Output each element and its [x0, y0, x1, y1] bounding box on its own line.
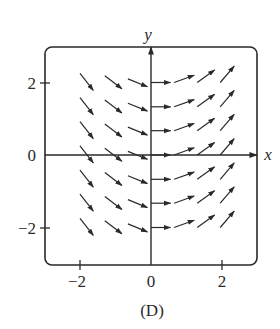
slope-arrow: [80, 170, 93, 187]
slope-arrow: [197, 191, 214, 204]
slope-arrow: [220, 90, 234, 106]
slope-arrow: [220, 163, 234, 179]
slope-arrow: [197, 94, 214, 107]
y-tick-label-2: 2: [28, 74, 37, 93]
slope-arrow: [128, 200, 147, 208]
slope-arrow: [174, 172, 194, 179]
slope-arrow: [128, 176, 147, 184]
slope-arrow: [105, 76, 122, 89]
figure-caption: (D): [140, 301, 164, 320]
slope-arrow: [105, 173, 122, 186]
slope-arrow: [80, 218, 93, 235]
slope-arrow: [220, 187, 234, 203]
y-tick-label-neg2: −2: [18, 219, 36, 238]
slope-arrow: [220, 66, 234, 82]
slope-arrow: [105, 196, 122, 209]
slope-arrow: [197, 70, 214, 83]
slope-arrow: [197, 167, 214, 180]
slope-arrow: [128, 127, 147, 135]
slope-arrow: [80, 194, 93, 211]
slope-arrow: [174, 220, 194, 227]
slope-arrows: [80, 66, 234, 235]
y-tick-label-0: 0: [28, 146, 37, 165]
slope-arrow: [220, 211, 234, 227]
slope-arrow: [80, 73, 93, 90]
x-tick-label-neg2: −2: [68, 272, 86, 291]
slope-arrow: [80, 122, 93, 139]
slope-arrow: [174, 148, 194, 155]
x-tick-label-2: 2: [218, 272, 227, 291]
slope-arrow: [128, 103, 147, 111]
slope-arrow: [174, 100, 194, 107]
slope-arrow: [197, 118, 214, 131]
y-axis-label: y: [142, 25, 152, 44]
slope-arrow: [80, 98, 93, 115]
slope-arrow: [174, 75, 194, 82]
direction-field-plot: y x 2 0 −2 −2 0 2 (D): [0, 0, 280, 329]
x-axis-label: x: [263, 145, 272, 164]
slope-arrow: [174, 196, 194, 203]
slope-arrow: [197, 143, 214, 156]
slope-arrow: [174, 124, 194, 131]
slope-arrow: [197, 215, 214, 228]
slope-arrow: [220, 139, 234, 155]
slope-arrow: [128, 224, 147, 232]
slope-arrow: [105, 221, 122, 234]
slope-arrow: [128, 79, 147, 87]
slope-arrow: [105, 100, 122, 113]
slope-arrow: [105, 124, 122, 137]
x-tick-label-0: 0: [147, 272, 156, 291]
slope-arrow: [220, 114, 234, 130]
